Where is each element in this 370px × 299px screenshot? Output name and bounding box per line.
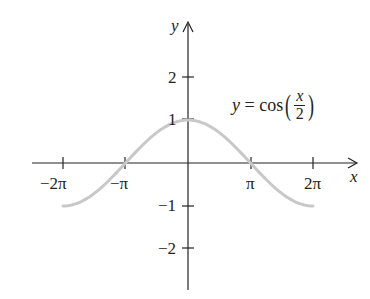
x-tick-label-pi: π bbox=[246, 175, 255, 192]
eq-denominator: 2 bbox=[296, 106, 304, 123]
y-tick-label-1: 1 bbox=[168, 111, 177, 128]
y-tick-label-2: 2 bbox=[168, 69, 177, 86]
x-tick-label-negpi: −π bbox=[110, 175, 128, 192]
x-tick-label-2pi: 2π bbox=[304, 175, 321, 192]
left-paren: ( bbox=[285, 90, 291, 120]
eq-numerator: x bbox=[294, 88, 305, 106]
y-tick-label-neg2: −2 bbox=[158, 240, 176, 257]
chart-figure: y x −2π −π π 2π 2 1 −1 −2 y = cos ( x 2 … bbox=[0, 0, 370, 299]
x-axis-label: x bbox=[350, 168, 358, 185]
x-tick-label-neg2pi: −2π bbox=[40, 175, 67, 192]
eq-fraction: x 2 bbox=[294, 88, 305, 123]
y-tick-label-neg1: −1 bbox=[158, 197, 176, 214]
right-paren: ) bbox=[308, 90, 314, 120]
curve-equation-label: y = cos ( x 2 ) bbox=[232, 88, 316, 123]
y-axis-label: y bbox=[171, 17, 179, 34]
eq-lhs: y bbox=[232, 95, 240, 116]
eq-cos: = cos bbox=[240, 95, 283, 116]
chart-plot-area bbox=[0, 0, 370, 299]
